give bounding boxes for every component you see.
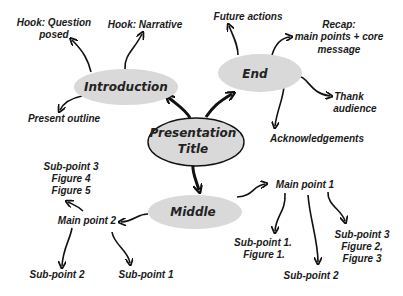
mp2-sub3-line3: Figure 5 — [52, 185, 91, 196]
arrow-center-to-intro — [168, 97, 190, 118]
mp1-sub3-line2: Figure 2, — [341, 241, 383, 252]
arrow-mp1-to-sub2 — [308, 195, 318, 262]
mp2-sub1-label: Sub-point 1 — [119, 269, 174, 280]
arrow-center-to-end — [206, 94, 232, 117]
arrow-mp1-to-sub1 — [275, 193, 285, 231]
arrow-intro-to-hook-narrative — [125, 34, 142, 69]
main-point-2-label: Main point 2 — [58, 215, 117, 226]
mp1-sub2-label: Sub-point 2 — [284, 270, 339, 281]
recap-line1: Recap: — [322, 19, 355, 30]
arrow-end-to-recap — [272, 37, 290, 55]
mp2-sub3-line1: Sub-point 3 — [44, 161, 99, 172]
arrow-mp2-to-sub3 — [68, 202, 83, 211]
hook-question-line1: Hook: Question — [17, 17, 91, 28]
presentation-title-line1: Presentation — [150, 126, 237, 140]
thank-audience-line1: Thank — [334, 91, 364, 102]
arrow-intro-to-hook-question — [72, 40, 91, 72]
arrow-end-to-future-actions — [229, 26, 238, 55]
introduction-label: Introduction — [84, 80, 168, 94]
arrow-intro-to-present-outline — [60, 96, 82, 110]
arrow-middle-to-main-point-2 — [121, 214, 148, 222]
middle-label: Middle — [170, 205, 216, 219]
arrow-end-to-acknowledgements — [275, 86, 284, 126]
main-point-1-label: Main point 1 — [276, 179, 335, 190]
mp1-sub1-line2: Figure 1. — [243, 249, 285, 260]
mp1-sub3-line3: Figure 3 — [343, 253, 382, 264]
end-label: End — [242, 67, 268, 81]
hook-narrative-label: Hook: Narrative — [108, 19, 183, 30]
recap-line2: main points + core — [295, 31, 384, 42]
mind-map-diagram: Introduction End Middle Presentation Tit… — [0, 0, 403, 296]
future-actions-label: Future actions — [214, 11, 283, 22]
recap-line3: message — [318, 44, 361, 55]
mp2-sub2-label: Sub-point 2 — [30, 269, 85, 280]
arrow-mp2-to-sub1 — [112, 232, 130, 263]
arrow-mp1-to-sub3 — [328, 192, 345, 221]
hook-question-line2: posed — [38, 29, 69, 40]
thank-audience-line2: audience — [333, 103, 377, 114]
arrow-mp2-to-sub2 — [62, 228, 72, 266]
acknowledgements-label: Acknowledgements — [269, 133, 364, 144]
presentation-title-line2: Title — [178, 142, 208, 156]
arrow-middle-to-main-point-1 — [237, 184, 265, 197]
present-outline-label: Present outline — [28, 113, 101, 124]
arrow-center-to-middle — [193, 165, 199, 190]
mp2-sub3-line2: Figure 4 — [52, 173, 91, 184]
mp1-sub3-line1: Sub-point 3 — [335, 229, 390, 240]
mp1-sub1-line1: Sub-point 1. — [234, 237, 292, 248]
